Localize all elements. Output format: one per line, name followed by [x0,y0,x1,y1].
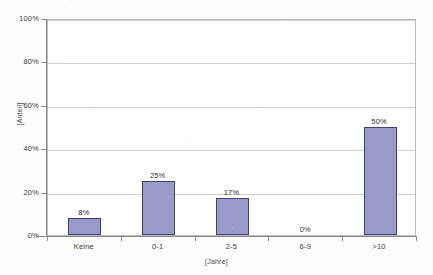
speckle [253,121,254,122]
speckle [296,202,297,203]
speckle [73,271,74,272]
speckle [181,151,182,152]
speckle [93,108,94,109]
speckle [285,239,286,240]
speckle [54,218,55,219]
speckle [121,134,122,135]
y-axis-tick-label: 20% [3,188,39,197]
speckle [413,52,414,53]
speckle [236,90,237,91]
x-axis-tick [268,236,269,241]
speckle [27,97,28,98]
gridline [48,63,415,64]
speckle [34,254,35,255]
speckle [189,136,190,137]
speckle [34,241,35,242]
bar-value-label: 50% [342,117,416,126]
gridline [48,107,415,108]
speckle [206,114,207,115]
speckle [290,43,291,44]
y-axis-tick [41,149,47,150]
bar [216,198,249,235]
speckle [213,14,214,15]
speckle [10,42,11,43]
speckle [73,10,74,11]
speckle [388,72,389,73]
x-axis-tick [47,236,48,241]
speckle [203,64,204,65]
cut-off-title-remnant [0,0,433,9]
y-axis-title: [Anteil] [14,84,26,144]
y-axis-tick-label: 40% [3,144,39,153]
speckle [294,177,295,178]
y-axis-line [46,19,47,237]
speckle [242,133,243,134]
speckle [35,5,36,6]
x-axis-category-label: 2-5 [195,242,269,251]
speckle [406,266,407,267]
speckle [215,64,216,65]
speckle [261,110,262,111]
speckle [66,212,67,213]
speckle [306,191,307,192]
y-axis-tick-label: 80% [3,57,39,66]
y-axis-tick-label: 0% [3,231,39,240]
speckle [76,13,77,14]
bar-value-label: 17% [195,188,269,197]
speckle [197,239,198,240]
x-axis-tick [121,236,122,241]
speckle [413,89,414,90]
speckle [115,263,116,264]
speckle [99,81,100,82]
gridline [48,20,415,21]
speckle [123,214,124,215]
bar [364,127,397,236]
speckle [174,29,175,30]
speckle [232,228,233,229]
y-axis-tick [41,193,47,194]
y-axis-tick [41,106,47,107]
y-axis-tick [41,19,47,20]
speckle [58,61,59,62]
speckle [20,113,21,114]
speckle [38,272,39,273]
speckle [321,36,322,37]
speckle [103,243,104,244]
speckle [52,122,53,123]
speckle [254,128,255,129]
speckle [290,77,291,78]
speckle [371,266,372,267]
x-axis-title: [Jahre] [0,258,433,265]
speckle [323,176,324,177]
x-axis-line [36,236,417,237]
speckle [191,139,192,140]
speckle [270,23,271,24]
speckle [365,40,366,41]
speckle [342,37,343,38]
bar [68,218,101,235]
speckle [195,120,196,121]
speckle [328,179,329,180]
speckle [50,67,51,68]
speckle [99,228,100,229]
speckle [190,230,191,231]
x-axis-tick [195,236,196,241]
x-axis-category-label: 0-1 [121,242,195,251]
x-axis-tick [342,236,343,241]
x-axis-category-label: 6-9 [268,242,342,251]
speckle [140,98,141,99]
x-axis-category-label: >10 [342,242,416,251]
speckle [114,65,115,66]
speckle [255,112,256,113]
speckle [3,207,4,208]
bar-value-label: 0% [268,225,342,234]
x-axis-tick [416,236,417,241]
bar-chart: 0%20%40%60%80%100% [Anteil] Keine0-12-56… [0,0,433,275]
bar-value-label: 25% [121,171,195,180]
bar-value-label: 8% [47,208,121,217]
plot-area [47,19,416,236]
y-axis-tick-label: 100% [3,14,39,23]
speckle [192,63,193,64]
speckle [240,6,241,7]
speckle [195,24,196,25]
